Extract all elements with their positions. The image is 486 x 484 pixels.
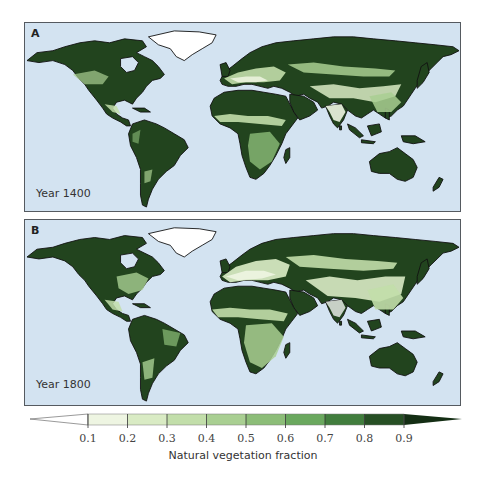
colorbar-tick-label: 0.5 — [237, 432, 255, 445]
greenland — [148, 228, 216, 257]
colorbar-bin-0.4-0.5 — [207, 414, 247, 425]
colorbar-bin-0.5-0.6 — [246, 414, 286, 425]
colorbar-tick-label: 0.9 — [395, 432, 413, 445]
sumatra — [348, 124, 364, 138]
sri-lanka — [340, 126, 342, 130]
britain — [220, 259, 230, 273]
new-guinea — [401, 331, 425, 339]
colorbar — [0, 408, 486, 432]
australia — [369, 148, 417, 182]
south-america — [129, 315, 189, 401]
colorbar-extend-high — [404, 414, 462, 425]
cuba — [133, 304, 151, 308]
colorbar-extend-low — [30, 414, 88, 425]
colorbar-tick-label: 0.8 — [356, 432, 374, 445]
colorbar-bin-0.3-0.4 — [167, 414, 207, 425]
colorbar-bin-0.1-0.2 — [88, 414, 128, 425]
colorbar-tick-label: 0.3 — [158, 432, 176, 445]
cuba — [133, 108, 151, 112]
sumatra — [348, 319, 364, 333]
colorbar-tick-label: 0.4 — [198, 432, 216, 445]
world-map-1400 — [25, 23, 460, 211]
britain — [220, 63, 230, 77]
colorbar-title: Natural vegetation fraction — [0, 449, 486, 462]
sri-lanka — [340, 321, 342, 325]
java — [361, 140, 375, 144]
new-zealand — [433, 372, 443, 386]
borneo — [367, 319, 381, 331]
borneo — [367, 124, 381, 136]
colorbar-tick-label: 0.2 — [119, 432, 137, 445]
map-panel-year-1400: A Year 1400 — [24, 22, 461, 212]
panel-year-label-b: Year 1800 — [36, 378, 91, 391]
java — [361, 335, 375, 339]
greenland — [148, 31, 216, 61]
madagascar — [284, 148, 290, 164]
map-panel-year-1800: B Year 1800 — [24, 219, 461, 406]
colorbar-bin-0.6-0.7 — [286, 414, 326, 425]
colorbar-tick-label: 0.6 — [277, 432, 295, 445]
panel-year-label-a: Year 1400 — [36, 187, 91, 200]
new-guinea — [401, 136, 425, 144]
colorbar-bin-0.8-0.9 — [365, 414, 405, 425]
colorbar-tick-label: 0.7 — [316, 432, 334, 445]
colorbar-tick-label: 0.1 — [79, 432, 97, 445]
colorbar-bin-0.2-0.3 — [128, 414, 168, 425]
colorbar-bin-0.7-0.8 — [325, 414, 365, 425]
australia — [369, 343, 417, 376]
panel-label-b: B — [31, 224, 39, 237]
panel-label-a: A — [31, 27, 40, 40]
new-zealand — [433, 177, 443, 191]
madagascar — [284, 343, 290, 359]
